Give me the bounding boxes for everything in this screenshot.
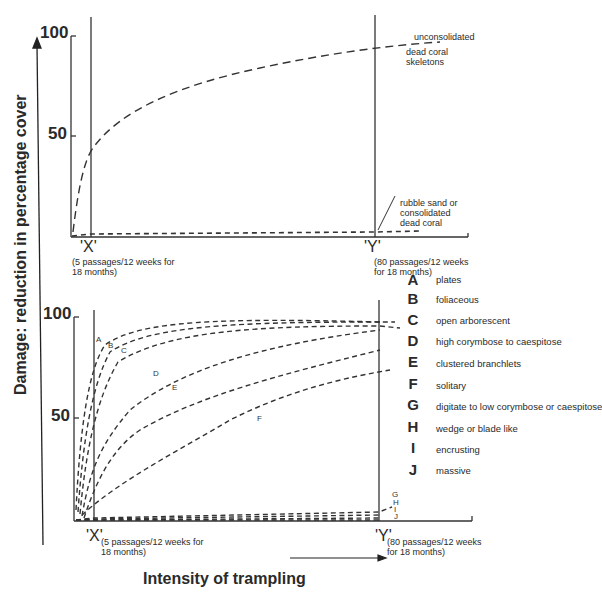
legend-key-B: B — [405, 290, 421, 307]
bottom-x-note-2: 18 months) — [101, 547, 146, 557]
legend-label-D: high corymbose to caespitose — [436, 336, 562, 347]
curve-label-F: F — [257, 414, 262, 423]
legend-label-E: clustered branchlets — [436, 358, 521, 369]
label-skeletons: skeletons — [406, 57, 444, 67]
label-rubble: rubble sand or — [400, 198, 458, 208]
curve-rubble — [72, 231, 420, 236]
legend-label-G: digitate to low corymbose or caespitose — [436, 401, 602, 412]
legend-label-I: encrusting — [436, 444, 480, 455]
bottom-y-note-2: for 18 months) — [387, 547, 445, 557]
top-tick-100: 100 — [40, 23, 68, 43]
x-axis-title: Intensity of trampling — [143, 570, 306, 588]
legend-label-F: solitary — [436, 380, 466, 391]
label-consolidated: consolidated — [400, 208, 451, 218]
curve-label-C: C — [121, 346, 127, 355]
top-tick-50: 50 — [48, 124, 67, 144]
top-y-note-2: for 18 months) — [374, 267, 432, 277]
label-dead-coral-2: dead coral — [400, 218, 442, 228]
legend-key-A: A — [405, 271, 421, 288]
legend-label-B: foliaceous — [436, 294, 479, 305]
y-axis-arrow — [33, 38, 43, 545]
x-axis-arrow — [290, 555, 386, 561]
legend-key-G: G — [405, 396, 421, 413]
curve-label-B: B — [108, 341, 113, 350]
top-marker-y: 'Y' — [364, 238, 381, 256]
bottom-y-note-1: (80 passages/12 weeks — [387, 537, 482, 547]
curve-label-A: A — [96, 335, 101, 344]
top-x-note-2: 18 months) — [72, 267, 117, 277]
label-dead-coral: dead coral — [406, 47, 448, 57]
label-unconsolidated: unconsolidated — [414, 32, 475, 42]
curve-label-E: E — [172, 383, 177, 392]
legend-key-C: C — [405, 311, 421, 328]
curve-label-D: D — [153, 369, 159, 378]
curve-D — [82, 330, 380, 516]
legend-label-H: wedge or blade like — [436, 423, 518, 434]
curve-C — [80, 326, 400, 514]
y-axis-title: Damage: reduction in percentage cover — [12, 94, 30, 395]
top-marker-x: 'X' — [80, 238, 97, 256]
legend-key-D: D — [405, 332, 421, 349]
legend-key-E: E — [405, 353, 421, 370]
top-y-note-1: (80 passages/12 weeks — [374, 257, 469, 267]
legend-key-H: H — [405, 418, 421, 435]
legend-key-J: J — [405, 461, 421, 478]
bottom-tick-100: 100 — [43, 304, 71, 324]
bottom-tick-50: 50 — [51, 406, 70, 426]
legend-label-C: open arborescent — [436, 315, 510, 326]
curve-unconsolidated — [73, 42, 440, 232]
top-x-note-1: (5 passages/12 weeks for — [72, 257, 175, 267]
legend-key-F: F — [405, 375, 421, 392]
curve-E — [84, 350, 380, 518]
legend-key-I: I — [405, 439, 421, 456]
legend-label-J: massive — [436, 465, 471, 476]
curve-F — [82, 370, 390, 515]
bottom-x-note-1: (5 passages/12 weeks for — [101, 537, 204, 547]
legend-label-A: plates — [436, 274, 461, 285]
curve-label-J: J — [394, 512, 398, 521]
